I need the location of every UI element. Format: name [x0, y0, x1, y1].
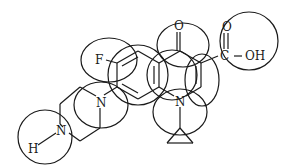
amine-hydrogen-label: H — [28, 142, 38, 156]
cyclopropyl-bonds — [167, 107, 193, 143]
fragment-circles — [18, 12, 278, 164]
ketone-oxygen-label: O — [174, 19, 184, 33]
piperazine-nitrogen-2-label: N — [56, 124, 67, 138]
hydroxyl-label: OH — [245, 49, 265, 63]
piperazine-nitrogen-1-label: N — [96, 96, 107, 110]
circle-fluoro — [81, 38, 137, 82]
chemical-structure-diagram: F O O C OH N N N H — [0, 0, 291, 168]
fluorine-label: F — [95, 53, 103, 67]
